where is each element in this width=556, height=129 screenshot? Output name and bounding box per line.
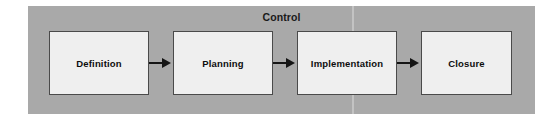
arrow-head	[286, 58, 295, 68]
phase-box-planning[interactable]: Planning	[173, 31, 273, 95]
phase-box-implementation[interactable]: Implementation	[297, 31, 397, 95]
phase-label-closure: Closure	[448, 58, 484, 69]
arrow-right-icon-definition-to-planning	[149, 56, 173, 70]
arrow-head	[162, 58, 171, 68]
phase-box-definition[interactable]: Definition	[49, 31, 149, 95]
phase-label-definition: Definition	[76, 58, 121, 69]
arrow-right-icon-implementation-to-closure	[397, 56, 421, 70]
arrow-head	[410, 58, 419, 68]
control-container: Control Definition Planning Implementati…	[28, 6, 535, 114]
arrow-right-icon-planning-to-implementation	[273, 56, 297, 70]
phase-label-implementation: Implementation	[311, 58, 383, 69]
phase-label-planning: Planning	[202, 58, 243, 69]
diagram-canvas: Control Definition Planning Implementati…	[0, 0, 556, 129]
phase-box-closure[interactable]: Closure	[421, 31, 512, 95]
control-container-title: Control	[28, 11, 535, 24]
